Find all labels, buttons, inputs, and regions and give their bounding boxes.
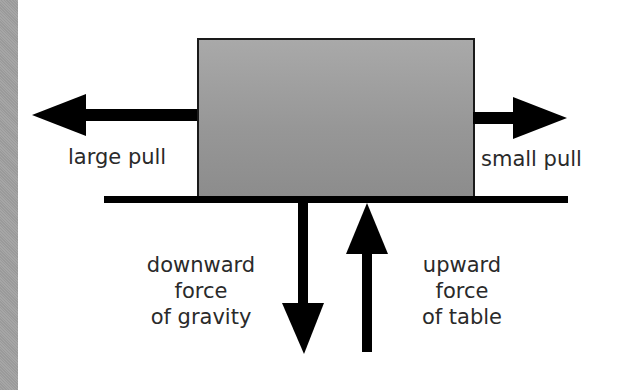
gravity-label-line: of gravity: [136, 304, 266, 330]
force-arrows: [0, 0, 631, 390]
table-label-line: of table: [412, 304, 512, 330]
gravity-label: downward force of gravity: [136, 252, 266, 330]
large-pull-arrow-icon: [32, 94, 197, 136]
gravity-arrow-icon: [282, 203, 324, 354]
small-pull-arrow-icon: [473, 97, 567, 139]
table-force-arrow-icon: [346, 203, 388, 352]
table-surface-line: [104, 196, 568, 203]
table-label-line: upward: [412, 252, 512, 278]
table-force-label: upward force of table: [412, 252, 512, 330]
small-pull-label: small pull: [481, 146, 582, 172]
large-pull-label: large pull: [68, 144, 166, 170]
gravity-label-line: force: [136, 278, 266, 304]
gravity-label-line: downward: [136, 252, 266, 278]
table-label-line: force: [412, 278, 512, 304]
